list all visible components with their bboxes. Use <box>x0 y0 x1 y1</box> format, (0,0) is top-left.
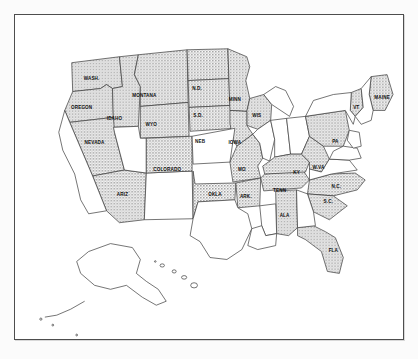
inset-alaska-island-3 <box>76 334 78 336</box>
state-south-dakota <box>188 79 230 108</box>
inset-alaska-aleutians <box>45 301 85 317</box>
inset-alaska-island-1 <box>40 318 42 320</box>
state-nebraska <box>189 105 235 131</box>
inset-hawaii-islet <box>154 261 156 263</box>
state-maryland-delaware <box>329 146 361 160</box>
state-new-jersey <box>347 130 361 148</box>
state-wyoming <box>140 102 189 138</box>
state-texas <box>190 200 252 260</box>
state-florida <box>298 226 344 274</box>
state-kansas <box>192 128 235 164</box>
inset-alaska <box>77 244 167 306</box>
state-montana <box>134 50 188 107</box>
state-new-mexico <box>144 171 193 220</box>
us-map-graphic <box>15 15 403 339</box>
state-north-dakota <box>187 49 229 81</box>
inset-hawaii-maui <box>182 276 187 280</box>
state-maine <box>369 75 393 111</box>
inset-hawaii-kauai <box>160 264 164 267</box>
map-figure: WASH.OREGONIDAHOMONTANAWYONEVADAN.D.S.D.… <box>14 14 404 340</box>
inset-hawaii-big-island <box>191 283 198 288</box>
state-washington <box>72 57 123 92</box>
state-colorado <box>146 136 192 173</box>
state-minnesota <box>228 49 250 112</box>
state-oregon <box>65 85 114 123</box>
state-arkansas <box>236 178 261 208</box>
state-alabama <box>276 190 298 236</box>
inset-hawaii-oahu <box>172 270 176 273</box>
inset-alaska-island-2 <box>52 324 54 326</box>
